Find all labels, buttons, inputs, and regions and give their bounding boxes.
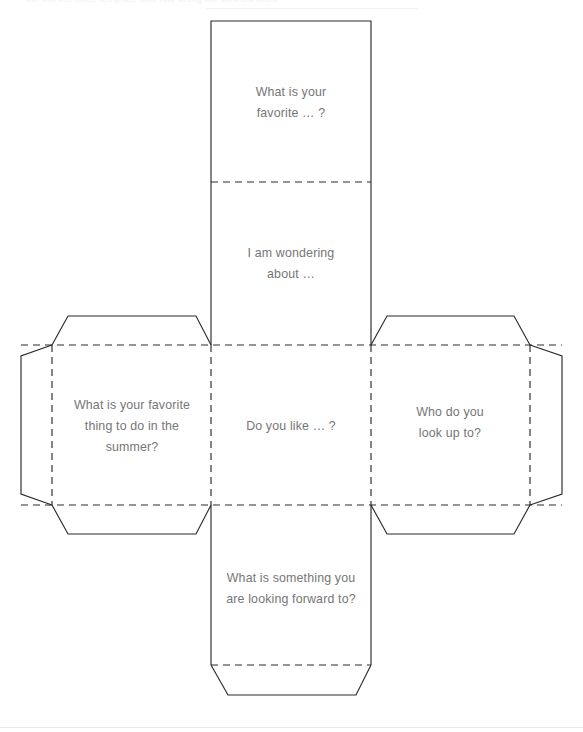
cube-net-diagram: What is your favorite … ? I am wondering… <box>0 0 583 732</box>
panel-top-face <box>211 21 371 182</box>
panel-upper-middle-face <box>211 182 371 345</box>
panel-top-line-2: favorite … ? <box>257 106 326 120</box>
panel-center-text-group: Do you like … ? <box>246 419 336 433</box>
cut-tab-left-bottom <box>52 505 211 534</box>
panel-right-face <box>371 345 530 505</box>
panel-bottom-line-2: are looking forward to? <box>226 592 356 606</box>
cut-tab-bottom <box>211 665 371 695</box>
panel-left-line-1: What is your favorite <box>74 398 190 412</box>
panel-left-line-3: summer? <box>106 440 159 454</box>
panel-upper-middle-line-2: about … <box>267 267 315 281</box>
panel-center-line-1: Do you like … ? <box>246 419 336 433</box>
footer-hairline <box>0 727 583 728</box>
cut-tab-left-top <box>52 316 211 345</box>
cut-tab-right-top <box>371 316 530 345</box>
panel-bottom-line-1: What is something you <box>227 571 356 585</box>
page-sheet: cut out the cube template and fold along… <box>0 0 583 732</box>
cut-tab-right-outer <box>530 345 562 505</box>
panel-top-line-1: What is your <box>256 85 327 99</box>
panel-left-line-2: thing to do in the <box>85 419 179 433</box>
panel-right-line-1: Who do you <box>416 405 484 419</box>
cut-tab-right-bottom <box>371 505 530 534</box>
panel-right-line-2: look up to? <box>419 426 481 440</box>
panel-bottom-face <box>211 505 371 665</box>
panel-upper-middle-line-1: I am wondering <box>248 246 335 260</box>
cut-tab-left-outer <box>21 345 52 505</box>
